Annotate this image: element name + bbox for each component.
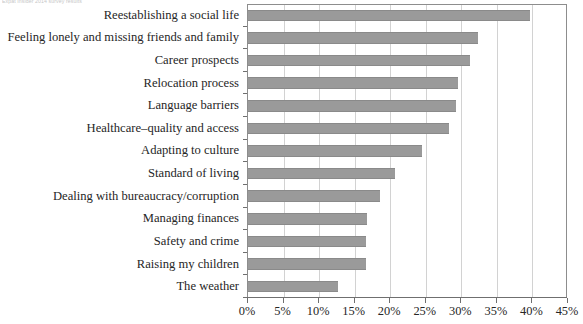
bar-row: Language barriers [0,94,583,117]
category-label: Reestablishing a social life [0,9,243,22]
x-axis-tick [531,298,532,303]
bar [248,190,380,202]
x-axis-label: 40% [511,304,551,319]
bar [248,123,449,135]
x-axis-tick [496,298,497,303]
x-axis-label: 35% [476,304,516,319]
category-label: The weather [0,280,243,293]
bar [248,77,458,89]
category-label: Healthcare–quality and access [0,122,243,135]
bar-track [248,117,449,140]
x-axis-label: 45% [547,304,583,319]
category-label: Adapting to culture [0,144,243,157]
bar-row: Healthcare–quality and access [0,117,583,140]
bar [248,145,422,157]
bar [248,213,367,225]
bar-track [248,162,395,185]
x-axis-tick [283,298,284,303]
bar-track [248,185,380,208]
x-axis-label: 15% [334,304,374,319]
category-label: Managing finances [0,212,243,225]
bar-row: Safety and crime [0,230,583,253]
x-axis-label: 20% [369,304,409,319]
bar-row: Relocation process [0,72,583,95]
bar-track [248,253,366,276]
bar [248,236,366,248]
x-axis-line [247,297,567,298]
bar-row: Feeling lonely and missing friends and f… [0,27,583,50]
x-axis-tick [567,298,568,303]
bar-track [248,49,470,72]
bar [248,10,530,22]
x-axis-label: 10% [298,304,338,319]
category-label: Career prospects [0,54,243,67]
x-axis-label: 0% [227,304,267,319]
bar-track [248,94,456,117]
category-label: Relocation process [0,77,243,90]
x-axis-tick [389,298,390,303]
bar-chart: Expat Insider 2014 survey results Reesta… [0,0,583,324]
x-axis-tick [247,298,248,303]
category-label: Dealing with bureaucracy/corruption [0,190,243,203]
x-axis-label: 30% [440,304,480,319]
category-label: Language barriers [0,99,243,112]
bar-row: Adapting to culture [0,140,583,163]
x-axis-tick [318,298,319,303]
x-axis-tick [354,298,355,303]
category-label: Safety and crime [0,235,243,248]
bar-row: Raising my children [0,253,583,276]
bar [248,168,395,180]
x-axis-tick [460,298,461,303]
bar-row: The weather [0,275,583,298]
bar-row: Standard of living [0,162,583,185]
x-axis-tick [425,298,426,303]
bar [248,258,366,270]
bar-row: Dealing with bureaucracy/corruption [0,185,583,208]
bar-row: Reestablishing a social life [0,4,583,27]
bar-track [248,208,367,231]
bar [248,281,338,293]
x-axis-label: 25% [405,304,445,319]
category-label: Standard of living [0,167,243,180]
bar-row: Managing finances [0,208,583,231]
bar [248,55,470,67]
x-axis-label: 5% [263,304,303,319]
bar-track [248,140,422,163]
bar [248,100,456,112]
bar-track [248,72,458,95]
bar-row: Career prospects [0,49,583,72]
bar-track [248,230,366,253]
bar [248,32,478,44]
bar-track [248,4,530,27]
bar-rows: Reestablishing a social lifeFeeling lone… [0,4,583,298]
category-label: Feeling lonely and missing friends and f… [0,31,243,44]
category-label: Raising my children [0,258,243,271]
bar-track [248,27,478,50]
bar-track [248,275,338,298]
